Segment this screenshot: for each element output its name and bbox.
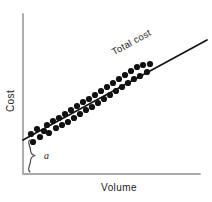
data-point <box>122 72 128 78</box>
x-axis-label: Volume <box>101 182 137 193</box>
data-point <box>28 131 34 137</box>
data-point <box>65 119 71 125</box>
data-point <box>62 111 68 117</box>
data-point <box>89 104 95 110</box>
data-point <box>95 100 101 106</box>
data-point <box>107 92 113 98</box>
data-point <box>59 122 65 128</box>
data-point <box>86 96 92 102</box>
chart-canvas: Cost Volume Total cost a <box>0 0 212 202</box>
data-point <box>110 80 116 86</box>
data-point <box>37 134 43 140</box>
data-point <box>119 84 125 90</box>
data-point <box>144 69 150 75</box>
data-point <box>104 84 110 90</box>
data-point <box>134 64 140 70</box>
data-point <box>44 122 50 128</box>
data-point <box>71 115 77 121</box>
data-point <box>34 126 40 132</box>
data-point <box>80 99 86 105</box>
data-point <box>131 76 137 82</box>
data-point <box>56 115 62 121</box>
data-point <box>125 80 131 86</box>
data-point <box>50 118 56 124</box>
data-point <box>74 103 80 109</box>
data-point <box>77 111 83 117</box>
data-point <box>46 130 52 136</box>
data-point <box>140 62 146 68</box>
data-point <box>137 73 143 79</box>
data-point <box>147 61 153 67</box>
data-point <box>30 139 36 145</box>
cost-volume-figure: Cost Volume Total cost a <box>0 0 212 202</box>
data-point <box>53 125 59 131</box>
data-point <box>68 107 74 113</box>
data-point <box>83 107 89 113</box>
data-point <box>113 88 119 94</box>
data-point <box>92 92 98 98</box>
data-point <box>128 68 134 74</box>
intercept-label: a <box>44 150 49 161</box>
data-point <box>116 76 122 82</box>
data-point <box>101 96 107 102</box>
data-point <box>98 88 104 94</box>
y-axis-label: Cost <box>5 90 16 112</box>
total-cost-label: Total cost <box>110 27 153 57</box>
